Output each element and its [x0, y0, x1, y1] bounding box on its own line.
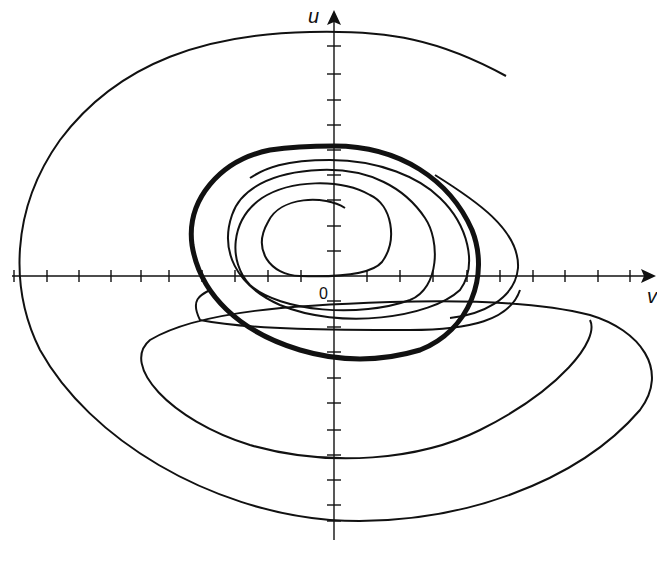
horizontal-axis-label: v	[647, 286, 657, 306]
origin-label: 0	[319, 286, 328, 302]
vertical-axis-label: u	[308, 6, 319, 26]
vertical-axis	[327, 18, 341, 540]
